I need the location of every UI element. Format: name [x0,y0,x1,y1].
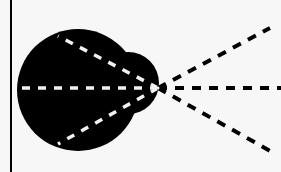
vertex-point [157,87,160,90]
diagram-canvas [0,0,281,172]
